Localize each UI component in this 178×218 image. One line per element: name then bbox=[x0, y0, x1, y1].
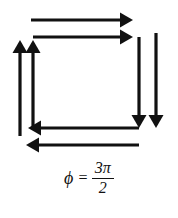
arrow-bottom-inner-left bbox=[28, 121, 139, 136]
arrow-left-inner-up bbox=[26, 40, 41, 128]
phase-vector-figure: ϕ = 3π 2 bbox=[0, 0, 178, 218]
arrow-bottom-outer-left bbox=[26, 138, 139, 153]
arrow-right-outer-down-head bbox=[149, 115, 164, 128]
arrow-top-outer-right bbox=[31, 13, 133, 28]
vector-diagram-canvas bbox=[0, 0, 178, 218]
arrow-left-inner-up-head bbox=[26, 40, 41, 53]
arrow-top-inner-right bbox=[33, 30, 133, 45]
arrow-top-inner-right-head bbox=[120, 30, 133, 45]
arrow-left-outer-up-head bbox=[13, 40, 28, 53]
arrow-right-inner-down-head bbox=[132, 115, 147, 128]
arrow-left-outer-up bbox=[13, 40, 28, 136]
arrow-right-outer-down bbox=[149, 33, 164, 128]
arrow-top-outer-right-head bbox=[120, 13, 133, 28]
arrow-bottom-outer-left-head bbox=[26, 138, 39, 153]
arrow-group bbox=[13, 13, 164, 153]
arrow-right-inner-down bbox=[132, 37, 147, 128]
